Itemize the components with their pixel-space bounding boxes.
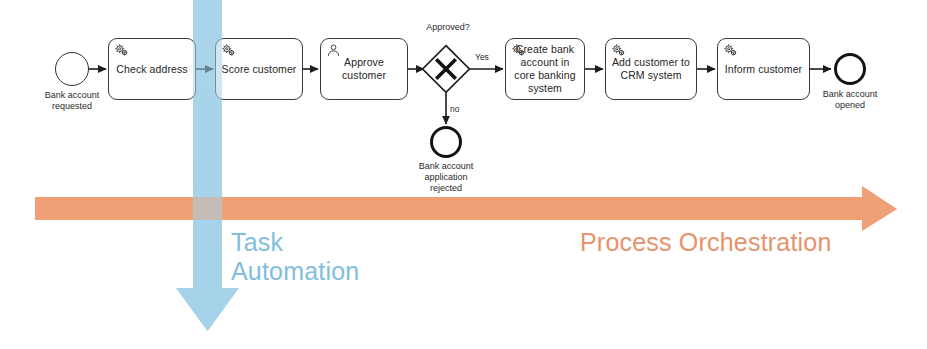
- diagram-canvas: Bank account requested Check address: [0, 0, 927, 349]
- task-automation-label: Task Automation: [231, 228, 359, 286]
- annotation-labels-layer: Task Automation Process Orchestration: [0, 0, 927, 349]
- process-orchestration-label: Process Orchestration: [580, 228, 832, 257]
